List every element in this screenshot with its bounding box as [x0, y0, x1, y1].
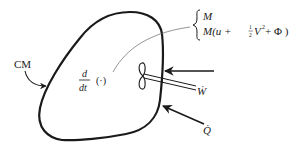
svg-text:2: 2: [249, 32, 252, 38]
rate-argument: (·): [96, 75, 106, 87]
rate-operator: d dt (·): [79, 68, 106, 93]
heat-rate-label: Q̇: [203, 124, 211, 136]
svg-text:1: 1: [249, 24, 252, 30]
mass-expression: M: [202, 10, 213, 22]
leader-line: [113, 27, 190, 72]
work-rate-label: Ẇ: [197, 85, 207, 97]
half-fraction: 1 2: [249, 24, 254, 38]
rate-numerator: d: [82, 68, 88, 79]
velocity-symbol: V: [254, 25, 262, 37]
heat-arrow: [163, 106, 204, 124]
cm-pointer-arrow: [25, 71, 46, 86]
potential-term: + Φ ): [265, 25, 289, 38]
energy-expression: M(u +: [202, 25, 232, 38]
rate-denominator: dt: [79, 82, 87, 93]
brace: [193, 10, 200, 40]
control-mass-diagram: CM d dt (·) M M(u + 1 2 V 2 + Φ ) Ẇ Q̇: [0, 0, 296, 150]
cm-label: CM: [14, 58, 31, 70]
paddle-wheel-icon: [139, 63, 196, 90]
